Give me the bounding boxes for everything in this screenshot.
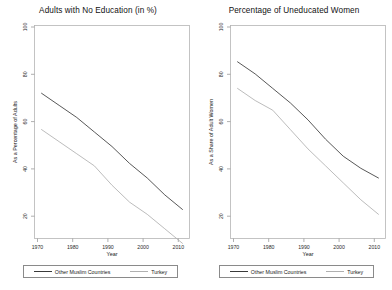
series-line [238, 62, 379, 178]
legend-label: Other Muslim Countries [55, 269, 111, 275]
x-tick-label: 2000 [333, 244, 345, 250]
legend-label: Turkey [151, 269, 167, 275]
series-group [238, 62, 379, 214]
x-axis-ticks [38, 239, 179, 243]
y-axis-tick-labels: 100 80 60 40 20 [22, 23, 28, 220]
plot-frame [231, 26, 386, 239]
x-tick-label: 1980 [263, 244, 275, 250]
y-tick-label: 20 [22, 213, 28, 219]
x-tick-label: 1990 [298, 244, 310, 250]
series-line [42, 93, 183, 209]
legend-swatch [230, 271, 248, 272]
panel-uneducated-women: Percentage of Uneducated Women 100 80 60… [196, 0, 392, 290]
x-tick-label: 1980 [67, 244, 79, 250]
legend-swatch [34, 271, 52, 272]
y-tick-label: 60 [218, 119, 224, 125]
plot-area-right: 100 80 60 40 20 As a Share of Adult Wome… [196, 0, 392, 290]
y-tick-label: 60 [22, 119, 28, 125]
y-axis-title: As a Share of Adult Women [208, 99, 214, 165]
series-line [238, 88, 379, 214]
x-tick-label: 2010 [369, 244, 381, 250]
legend-swatch [130, 271, 148, 272]
legend-entry-other-muslim-countries: Other Muslim Countries [34, 269, 111, 275]
legend-entry-other-muslim-countries: Other Muslim Countries [230, 269, 307, 275]
y-tick-label: 40 [22, 166, 28, 172]
figure-two-panel-line-charts: Adults with No Education (in %) 100 80 6… [0, 0, 392, 290]
legend-label: Other Muslim Countries [251, 269, 307, 275]
x-tick-label: 2010 [173, 244, 185, 250]
y-axis-ticks [31, 27, 35, 216]
legend: Other Muslim Countries Turkey [23, 265, 178, 278]
x-tick-label: 1970 [228, 244, 240, 250]
y-tick-label: 100 [218, 23, 224, 32]
y-tick-label: 80 [218, 71, 224, 77]
plot-area-left: 100 80 60 40 20 As a Percentage of Adult… [0, 0, 196, 290]
y-tick-label: 20 [218, 213, 224, 219]
x-axis-ticks [234, 239, 375, 243]
x-axis-tick-labels: 1970 1980 1990 2000 2010 [32, 244, 184, 250]
x-axis-title: Year [107, 251, 118, 257]
x-axis-title: Year [303, 251, 314, 257]
x-tick-label: 2000 [137, 244, 149, 250]
legend-label: Turkey [347, 269, 363, 275]
series-group [42, 93, 183, 243]
legend-entry-turkey: Turkey [130, 269, 167, 275]
x-axis-tick-labels: 1970 1980 1990 2000 2010 [228, 244, 380, 250]
x-tick-label: 1970 [32, 244, 44, 250]
panel-adults-no-education: Adults with No Education (in %) 100 80 6… [0, 0, 196, 290]
y-tick-label: 40 [218, 166, 224, 172]
plot-frame [35, 26, 190, 239]
y-tick-label: 100 [22, 23, 28, 32]
legend-entry-turkey: Turkey [326, 269, 363, 275]
y-tick-label: 80 [22, 71, 28, 77]
legend-swatch [326, 271, 344, 272]
legend: Other Muslim Countries Turkey [219, 265, 374, 278]
y-axis-title: As a Percentage of Adults [12, 101, 18, 163]
y-axis-ticks [227, 27, 231, 216]
y-axis-tick-labels: 100 80 60 40 20 [218, 23, 224, 220]
x-tick-label: 1990 [102, 244, 114, 250]
